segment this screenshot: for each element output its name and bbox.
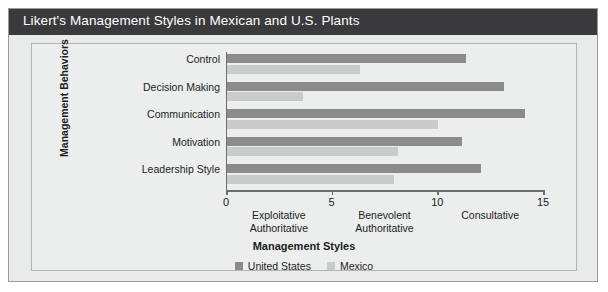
- category-label: Leadership Style: [142, 163, 220, 175]
- plot-panel: Management Behaviors ControlDecision Mak…: [31, 43, 577, 271]
- category-group: Leadership Style: [227, 162, 544, 190]
- bar-united-states: [227, 164, 481, 173]
- x-axis-tick-label: 15: [537, 196, 549, 208]
- category-label: Motivation: [172, 136, 220, 148]
- bar-mexico: [227, 175, 394, 184]
- category-label: Control: [186, 53, 220, 65]
- legend-item: United States: [235, 260, 311, 272]
- x-axis-tick-label: 0: [223, 196, 229, 208]
- x-axis-tick-label: 10: [431, 196, 443, 208]
- management-style-label: BenevolentAuthoritative: [355, 209, 413, 234]
- bar-united-states: [227, 109, 525, 118]
- management-style-label: Consultative: [461, 209, 519, 222]
- bar-united-states: [227, 137, 462, 146]
- category-label: Decision Making: [143, 81, 220, 93]
- x-axis-line: [226, 190, 544, 192]
- legend-item: Mexico: [327, 260, 373, 272]
- x-axis-tick: [226, 190, 228, 195]
- bar-mexico: [227, 147, 398, 156]
- x-axis-tick: [437, 190, 439, 195]
- management-style-label: ExploitativeAuthoritative: [250, 209, 308, 234]
- chart-title-bar: Likert's Management Styles in Mexican an…: [9, 9, 597, 35]
- chart-legend: United StatesMexico: [32, 260, 576, 272]
- category-label: Communication: [147, 108, 220, 120]
- legend-swatch-icon: [235, 262, 243, 270]
- x-axis-tick: [543, 190, 545, 195]
- x-axis-tick: [332, 190, 334, 195]
- bar-mexico: [227, 120, 438, 129]
- category-group: Decision Making: [227, 80, 544, 108]
- legend-label: Mexico: [340, 260, 373, 272]
- legend-label: United States: [248, 260, 311, 272]
- bar-mexico: [227, 92, 303, 101]
- category-group: Communication: [227, 107, 544, 135]
- category-group: Control: [227, 52, 544, 80]
- bar-united-states: [227, 82, 504, 91]
- x-axis-title: Management Styles: [32, 240, 576, 252]
- category-group: Motivation: [227, 135, 544, 163]
- bar-mexico: [227, 65, 360, 74]
- plot-area: ControlDecision MakingCommunicationMotiv…: [226, 52, 544, 190]
- y-axis-title: Management Behaviors: [58, 33, 70, 163]
- bar-united-states: [227, 54, 466, 63]
- legend-swatch-icon: [327, 262, 335, 270]
- chart-figure: Likert's Management Styles in Mexican an…: [8, 8, 598, 282]
- x-axis-tick-label: 5: [329, 196, 335, 208]
- chart-title: Likert's Management Styles in Mexican an…: [23, 13, 360, 28]
